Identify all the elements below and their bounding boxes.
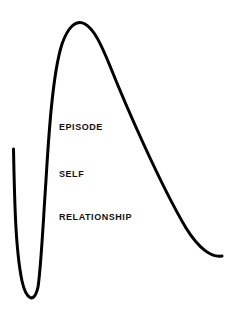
diagram-canvas: EPISODE SELF RELATIONSHIP xyxy=(0,0,243,317)
label-episode: EPISODE xyxy=(59,122,103,133)
label-relationship: RELATIONSHIP xyxy=(59,212,132,223)
curve-stroke-icon xyxy=(14,23,223,298)
label-self: SELF xyxy=(59,169,84,180)
curve-graphic xyxy=(0,0,243,317)
